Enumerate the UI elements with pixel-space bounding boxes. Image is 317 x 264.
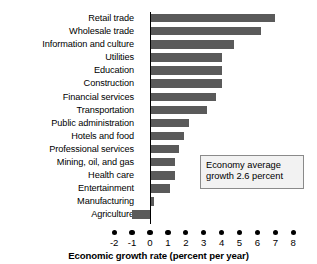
bar-row <box>110 12 300 25</box>
x-axis-tick-dot <box>183 230 188 235</box>
bar <box>150 14 275 22</box>
x-axis-tick-dot <box>255 230 260 235</box>
bar-row <box>110 208 300 221</box>
bar <box>150 184 170 192</box>
bar-row <box>110 104 300 117</box>
bar-row <box>110 117 300 130</box>
x-axis-tick-dot <box>219 230 224 235</box>
bar-row <box>110 38 300 51</box>
bar <box>150 171 175 179</box>
bar-row <box>110 77 300 90</box>
x-tick-label: 8 <box>283 237 303 248</box>
x-axis-tick-dot <box>201 230 206 235</box>
x-axis-tick-labels: -2-1012345678 <box>0 237 317 250</box>
bar-row <box>110 130 300 143</box>
x-axis-tick-dot <box>291 230 296 235</box>
bar <box>150 79 222 87</box>
plot-area: Retail tradeWholesale tradeInformation a… <box>0 0 317 264</box>
bar-row <box>110 195 300 208</box>
bar <box>150 132 184 140</box>
bar-series <box>110 12 300 222</box>
bar <box>150 27 261 35</box>
bar <box>150 53 222 61</box>
bar-row <box>110 91 300 104</box>
x-axis-tick-dot <box>273 230 278 235</box>
economy-average-callout: Economy average growth 2.6 percent <box>200 155 304 189</box>
x-axis-tick-dot <box>237 230 242 235</box>
chart-figure: Retail tradeWholesale tradeInformation a… <box>0 0 317 264</box>
bar <box>132 210 150 218</box>
bar-row <box>110 25 300 38</box>
x-axis-title: Economic growth rate (percent per year) <box>0 250 317 261</box>
bar-row <box>110 51 300 64</box>
bar <box>150 93 216 101</box>
bar <box>150 158 175 166</box>
bar <box>150 66 222 74</box>
bar-row <box>110 64 300 77</box>
callout-line-2: growth 2.6 percent <box>206 171 298 182</box>
x-axis-tick-dot <box>112 230 117 235</box>
x-axis-tick-dot <box>147 230 152 235</box>
bar <box>150 119 189 127</box>
callout-line-1: Economy average <box>206 160 298 171</box>
zero-baseline <box>150 12 151 224</box>
x-axis-tick-dot <box>129 230 134 235</box>
bar <box>150 106 207 114</box>
x-axis-tick-dot <box>165 230 170 235</box>
bar <box>150 145 179 153</box>
bar <box>150 40 234 48</box>
